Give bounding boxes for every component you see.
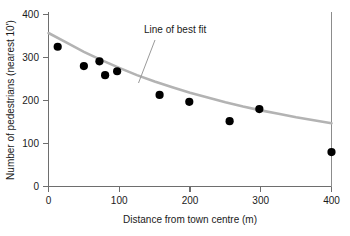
- data-point: [226, 117, 234, 125]
- x-axis-ticks: [49, 187, 332, 193]
- y-axis-title: Number of pedestrians (nearest 10'): [5, 20, 16, 180]
- y-tick-label-200: 200: [22, 95, 39, 106]
- y-axis-ticks: [43, 15, 49, 187]
- x-tick-label-100: 100: [111, 195, 128, 206]
- chart-figure: 0 100 200 300 400 0 100 200 300 400 Dist…: [0, 0, 350, 236]
- data-point: [95, 57, 103, 65]
- data-point: [327, 148, 335, 156]
- x-tick-labels: 0 100 200 300 400: [46, 195, 341, 206]
- y-tick-label-300: 300: [22, 52, 39, 63]
- x-axis-title: Distance from town centre (m): [123, 214, 257, 225]
- annotation-line-of-best-fit: Line of best fit: [144, 24, 206, 35]
- data-point: [113, 67, 121, 75]
- x-tick-label-400: 400: [323, 195, 340, 206]
- data-point: [80, 62, 88, 70]
- y-tick-label-0: 0: [33, 181, 39, 192]
- x-tick-label-300: 300: [252, 195, 269, 206]
- data-point: [185, 98, 193, 106]
- data-point: [155, 91, 163, 99]
- data-points-group: [54, 43, 336, 157]
- y-tick-label-400: 400: [22, 9, 39, 20]
- x-tick-label-200: 200: [182, 195, 199, 206]
- y-tick-labels: 0 100 200 300 400: [22, 9, 39, 192]
- y-tick-label-100: 100: [22, 138, 39, 149]
- chart-canvas: 0 100 200 300 400 0 100 200 300 400 Dist…: [0, 0, 350, 236]
- annotation-leader-line: [139, 40, 156, 83]
- data-point: [255, 105, 263, 113]
- line-of-best-fit: [49, 33, 332, 123]
- data-point: [101, 71, 109, 79]
- data-point: [54, 43, 62, 51]
- x-tick-label-0: 0: [46, 195, 52, 206]
